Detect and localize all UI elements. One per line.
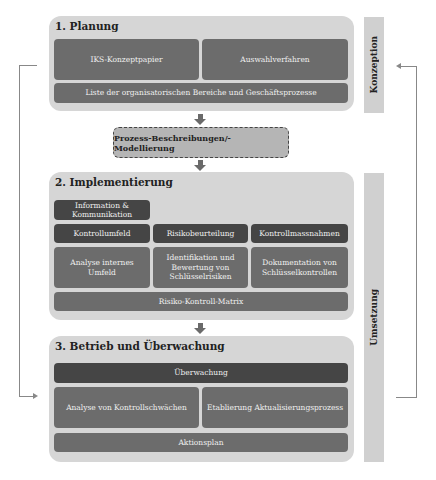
left-connector-arrow-icon xyxy=(33,393,38,399)
right-connector-bottom xyxy=(396,397,417,398)
side-label-konzeption: Konzeption xyxy=(364,17,384,113)
phase2-header-kontrollumfeld: Kontrollumfeld xyxy=(54,224,150,243)
phase2-title: 2. Implementierung xyxy=(55,176,173,188)
phase2-info-kommunikation: Information & Kommunikation xyxy=(54,200,150,220)
phase2-bottom-risiko-kontroll-matrix: Risiko-Kontroll-Matrix xyxy=(54,292,348,311)
right-connector-arrow-icon xyxy=(396,63,401,69)
phase1-item-iks-konzeptpapier: IKS-Konzeptpapier xyxy=(54,39,199,80)
right-connector-top xyxy=(400,66,417,67)
arrow-down-2-icon xyxy=(194,165,206,171)
phase1-title: 1. Planung xyxy=(55,20,119,32)
side-label-konzeption-text: Konzeption xyxy=(369,36,379,93)
phase2-detail-identifikation-bewertung: Identifikation und Bewertung von Schlüss… xyxy=(153,247,248,288)
right-connector-vertical xyxy=(416,66,417,398)
phase2-detail-dokumentation: Dokumentation von Schlüsselkontrollen xyxy=(251,247,348,288)
phase2-detail-analyse-internes-umfeld: Analyse internes Umfeld xyxy=(54,247,150,288)
phase2-header-risikobeurteilung: Risikobeurteilung xyxy=(153,224,248,243)
phase3-title: 3. Betrieb und Überwachung xyxy=(55,340,225,352)
side-label-umsetzung-text: Umsetzung xyxy=(369,289,379,346)
arrow-down-1-icon xyxy=(194,119,206,125)
phase2-header-kontrollmassnahmen: Kontrollmassnahmen xyxy=(251,224,348,243)
process-modelling-box: Prozess-Beschreibungen/-Modellierung xyxy=(113,127,289,158)
left-connector-top xyxy=(19,65,37,66)
phase3-item-analyse-kontrollschwaechen: Analyse von Kontrollschwächen xyxy=(54,387,199,428)
phase1-item-auswahlverfahren: Auswahlverfahren xyxy=(202,39,348,80)
left-connector-vertical xyxy=(19,65,20,396)
side-label-umsetzung: Umsetzung xyxy=(364,173,384,462)
phase3-top-ueberwachung: Überwachung xyxy=(54,363,348,383)
arrow-down-3-icon xyxy=(194,328,206,334)
phase3-item-etablierung-aktualisierungsprozess: Etablierung Aktualisierungsprozess xyxy=(202,387,348,428)
phase3-bottom-aktionsplan: Aktionsplan xyxy=(54,433,348,452)
phase1-bottom-liste: Liste der organisatorischen Bereiche und… xyxy=(54,83,348,103)
